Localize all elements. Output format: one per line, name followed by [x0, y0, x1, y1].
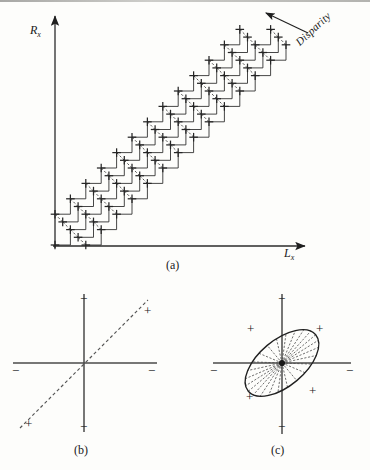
panel-b-sign-top: −: [80, 291, 87, 307]
panel-b-sign-right: −: [148, 363, 155, 379]
caption-a: (a): [166, 258, 179, 273]
lattice-connectors: [55, 29, 286, 245]
figure-canvas: [0, 0, 370, 470]
panel-b: [13, 294, 157, 432]
panel-b-sign-bottom: −: [80, 419, 87, 435]
panel-a-x-axis-label: Lx: [284, 246, 294, 262]
panel-c-sign-lower-right: +: [309, 383, 316, 399]
panel-c-sign-top: −: [278, 291, 285, 307]
ellipse-spoke: [253, 363, 282, 395]
ellipse-spoke: [248, 363, 282, 371]
panel-a: [51, 13, 308, 249]
panel-c: [213, 294, 351, 434]
caption-b: (b): [74, 443, 88, 458]
ellipse-spoke: [282, 340, 318, 363]
disparity-lattice: [51, 25, 291, 249]
panel-c-sign-lower-left: +: [246, 389, 253, 405]
panel-b-sign-diagonal-lower-left: +: [25, 416, 32, 432]
ellipse-spoke: [282, 331, 311, 363]
panel-c-sign-left: −: [210, 363, 217, 379]
panel-c-sign-upper-right: +: [316, 321, 323, 337]
panel-c-sign-bottom: −: [278, 419, 285, 435]
ellipse-spoke: [259, 353, 282, 363]
panel-c-sign-right: −: [346, 363, 353, 379]
ellipse-spoke: [248, 363, 282, 391]
ellipse-spoke: [282, 363, 305, 373]
panel-b-sign-diagonal-upper-right: +: [144, 303, 151, 319]
panel-b-sign-left: −: [12, 363, 19, 379]
panel-c-sign-upper-left: +: [247, 321, 254, 337]
ellipse-spoke: [282, 335, 316, 363]
caption-c: (c): [271, 443, 284, 458]
panel-a-y-axis-label: Rx: [30, 23, 41, 39]
panel-c-center-dot: [279, 360, 285, 366]
ellipse-spoke: [246, 363, 282, 386]
ellipse-spoke: [282, 355, 316, 363]
